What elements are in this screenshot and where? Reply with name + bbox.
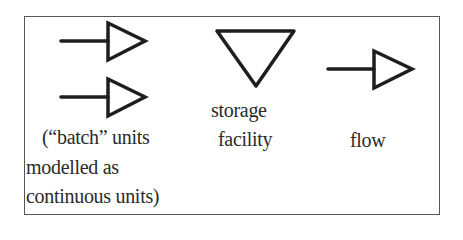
batch-arrow-icon-1 <box>61 23 145 60</box>
batch-label-line-1: (“batch” units <box>42 125 149 150</box>
storage-triangle-icon <box>217 31 294 86</box>
storage-label-line-2: facility <box>218 127 272 152</box>
flow-arrow-icon <box>328 51 412 88</box>
batch-arrow-icon-2 <box>61 79 145 116</box>
batch-label-line-2: modelled as <box>26 155 119 180</box>
flow-label: flow <box>350 128 385 153</box>
batch-label-line-3: continuous units) <box>26 184 159 209</box>
storage-label-line-1: storage <box>211 98 267 123</box>
